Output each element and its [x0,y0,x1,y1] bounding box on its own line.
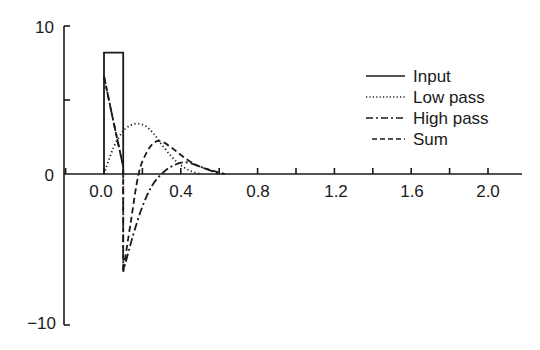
x-tick-labels: 0.0 0.4 0.8 1.2 1.6 2.0 [89,182,500,201]
series-low-pass-line [104,124,200,174]
x-tick-label: 1.6 [400,182,424,201]
legend-label: High pass [413,109,489,128]
x-tick-label: 0.8 [246,182,270,201]
axes [64,26,522,325]
chart: 10 0 −10 0.0 0.4 0.8 1.2 1.6 2.0 Input L… [0,0,540,350]
y-tick-labels: 10 0 −10 [27,18,56,333]
x-tick-label: 1.2 [324,182,348,201]
legend-item-input: Input [366,67,451,86]
legend-label: Low pass [413,88,485,107]
plot-series [104,53,225,272]
y-tick-label: −10 [27,314,56,333]
legend-item-high-pass: High pass [366,109,489,128]
legend-item-sum: Sum [372,130,448,149]
x-tick-label: 0.4 [169,182,193,201]
x-tick-label: 0.0 [89,182,113,201]
y-tick-label: 0 [45,166,54,185]
legend-item-low-pass: Low pass [366,88,485,107]
x-ticks [66,168,488,174]
y-tick-label: 10 [35,18,54,37]
legend-label: Sum [413,130,448,149]
legend: Input Low pass High pass Sum [366,67,489,149]
x-tick-label: 2.0 [476,182,500,201]
legend-label: Input [413,67,451,86]
